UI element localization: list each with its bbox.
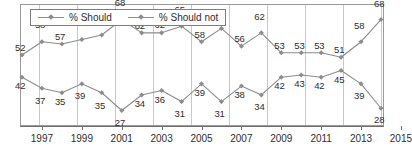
data-label-should: 68: [115, 0, 125, 7]
data-label-should-not: 43: [294, 79, 304, 89]
x-axis-tick-label: 1999: [71, 133, 93, 144]
data-point-marker: [59, 41, 64, 46]
data-label-should: 52: [15, 43, 25, 53]
data-point-marker: [299, 72, 304, 77]
x-axis-tick-label: 2001: [111, 133, 133, 144]
x-axis-tick: [281, 126, 282, 130]
x-axis-tick: [82, 126, 83, 130]
data-label-should-not: 35: [95, 101, 105, 111]
data-point-marker: [319, 50, 324, 55]
x-axis-tick-label: 2003: [150, 133, 172, 144]
legend-label-should-not: % Should not: [159, 12, 219, 23]
line-marker-icon: [128, 14, 154, 22]
x-axis-tick-label: 2005: [190, 133, 212, 144]
data-point-marker: [299, 50, 304, 55]
data-label-should: 57: [55, 32, 65, 42]
legend-label-should: % Should: [69, 12, 112, 23]
legend-entry-should[interactable]: % Should: [38, 12, 112, 23]
x-axis-tick-label: 1997: [31, 133, 53, 144]
data-label-should-not: 42: [314, 81, 324, 91]
x-axis-tick: [162, 126, 163, 130]
data-label-should-not: 39: [354, 91, 364, 101]
data-label-should: 58: [354, 21, 364, 31]
data-label-should-not: 34: [135, 99, 145, 109]
data-label-should-not: 35: [55, 97, 65, 107]
data-label-should-not: 28: [374, 115, 384, 125]
x-axis-tick: [361, 126, 362, 130]
data-label-should-not: 34: [254, 102, 264, 112]
data-label-should: 68: [374, 0, 384, 8]
x-axis-tick-label: 2007: [230, 133, 252, 144]
data-point-marker: [79, 81, 84, 86]
line-marker-icon: [38, 14, 64, 22]
x-axis-tick: [321, 126, 322, 130]
data-label-should-not: 42: [274, 81, 284, 91]
data-label-should-not: 39: [75, 91, 85, 101]
x-axis-tick-label: 2011: [310, 133, 332, 144]
data-label-should-not: 31: [214, 109, 224, 119]
data-point-marker: [39, 86, 44, 91]
data-label-should-not: 39: [195, 88, 205, 98]
data-label-should-not: 42: [15, 81, 25, 91]
x-axis-tick: [202, 126, 203, 130]
data-label-should-not: 45: [334, 75, 344, 85]
data-label-should-not: 38: [234, 90, 244, 100]
data-label-should: 53: [294, 41, 304, 51]
data-label-should: 62: [254, 12, 264, 22]
x-axis-tick-label: 2013: [350, 133, 372, 144]
data-point-marker: [59, 90, 64, 95]
x-axis-tick: [401, 126, 402, 130]
legend-entry-should-not[interactable]: % Should not: [128, 12, 219, 23]
x-axis-tick: [122, 126, 123, 130]
data-point-marker: [159, 30, 164, 35]
x-axis-tick-label: 2009: [270, 133, 292, 144]
data-label-should: 53: [314, 41, 324, 51]
data-label-should: 53: [274, 41, 284, 51]
data-label-should-not: 36: [155, 95, 165, 105]
data-point-marker: [79, 37, 84, 42]
data-label-should: 58: [195, 30, 205, 40]
data-label-should: 51: [334, 45, 344, 55]
legend: % Should % Should not: [30, 9, 226, 26]
x-axis-tick-label: 2015: [390, 133, 412, 144]
data-label-should-not: 37: [35, 96, 45, 106]
data-point-marker: [319, 75, 324, 80]
data-point-marker: [19, 75, 24, 80]
data-label-should: 56: [234, 34, 244, 44]
x-axis-tick: [241, 126, 242, 130]
data-point-marker: [159, 88, 164, 93]
data-label-should-not: 31: [175, 109, 185, 119]
x-axis-tick: [42, 126, 43, 130]
